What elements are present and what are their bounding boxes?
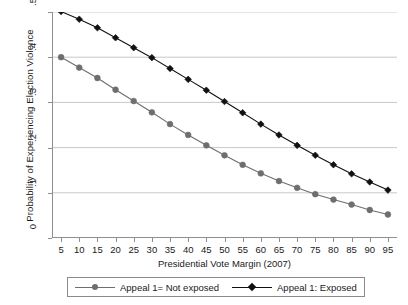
data-point-marker (276, 132, 283, 139)
x-tick-mark (297, 238, 298, 242)
data-point-marker (185, 132, 191, 138)
data-point-marker (112, 34, 119, 41)
plot-area (52, 12, 397, 238)
x-tick-mark (79, 238, 80, 242)
x-tick-label: 25 (124, 244, 144, 255)
x-tick-label: 40 (178, 244, 198, 255)
legend-entry: Appeal 1: Exposed (232, 278, 357, 296)
legend-label: Appeal 1: Exposed (277, 282, 357, 293)
x-tick-label: 50 (215, 244, 235, 255)
data-point-marker (258, 170, 264, 176)
data-point-marker (312, 152, 319, 159)
circle-marker-icon (92, 284, 98, 290)
x-tick-mark (225, 238, 226, 242)
x-tick-label: 60 (251, 244, 271, 255)
x-tick-label: 85 (342, 244, 362, 255)
chart-legend: Appeal 1= Not exposedAppeal 1: Exposed (67, 277, 365, 297)
data-point-marker (385, 212, 391, 218)
data-point-marker (76, 65, 82, 71)
x-tick-label: 15 (87, 244, 107, 255)
x-tick-mark (134, 238, 135, 242)
x-tick-mark (315, 238, 316, 242)
data-point-marker (203, 142, 209, 148)
diamond-marker-icon (248, 283, 256, 291)
data-point-marker (367, 207, 373, 213)
data-point-marker (203, 87, 210, 94)
x-tick-label: 55 (233, 244, 253, 255)
data-point-marker (331, 197, 337, 203)
legend-key (75, 281, 115, 293)
data-point-marker (312, 191, 318, 197)
y-axis-title: Probability of Experiencing Election Vio… (24, 6, 35, 246)
x-tick-label: 80 (323, 244, 343, 255)
data-point-marker (222, 152, 228, 158)
x-tick-mark (352, 238, 353, 242)
x-tick-mark (97, 238, 98, 242)
data-point-marker (239, 110, 246, 117)
x-tick-label: 65 (269, 244, 289, 255)
x-tick-mark (370, 238, 371, 242)
y-tick-mark (48, 238, 52, 239)
data-point-marker (330, 161, 337, 168)
x-tick-mark (333, 238, 334, 242)
data-point-marker (130, 44, 137, 51)
x-tick-mark (279, 238, 280, 242)
x-tick-mark (116, 238, 117, 242)
x-tick-mark (261, 238, 262, 242)
data-point-marker (366, 179, 373, 186)
x-tick-mark (170, 238, 171, 242)
legend-entry: Appeal 1= Not exposed (75, 278, 219, 296)
data-point-marker (76, 16, 83, 23)
data-point-marker (58, 54, 64, 60)
data-point-marker (221, 98, 228, 105)
x-tick-mark (152, 238, 153, 242)
x-tick-mark (388, 238, 389, 242)
x-axis-title: Presidential Vote Margin (2007) (52, 258, 397, 269)
data-point-marker (131, 98, 137, 104)
x-tick-label: 10 (69, 244, 89, 255)
data-point-marker (167, 65, 174, 72)
data-point-marker (149, 54, 156, 61)
data-point-marker (94, 25, 101, 32)
x-tick-mark (61, 238, 62, 242)
data-point-marker (349, 202, 355, 208)
data-point-marker (58, 12, 65, 15)
x-tick-mark (188, 238, 189, 242)
data-point-marker (348, 171, 355, 178)
x-tick-mark (206, 238, 207, 242)
data-point-marker (185, 76, 192, 83)
y-tick-label: .5 (28, 0, 62, 6)
data-point-marker (94, 75, 100, 81)
plot-canvas (52, 12, 397, 238)
x-tick-label: 20 (106, 244, 126, 255)
data-point-marker (276, 178, 282, 184)
legend-label: Appeal 1= Not exposed (120, 282, 219, 293)
chart-figure: Probability of Experiencing Election Vio… (0, 0, 408, 305)
x-tick-label: 45 (196, 244, 216, 255)
data-point-marker (113, 87, 119, 93)
data-point-marker (167, 121, 173, 127)
x-tick-label: 30 (142, 244, 162, 255)
data-point-marker (294, 185, 300, 191)
x-tick-mark (243, 238, 244, 242)
data-point-marker (258, 121, 265, 128)
legend-key (232, 281, 272, 293)
x-tick-label: 90 (360, 244, 380, 255)
data-point-marker (240, 162, 246, 168)
x-tick-label: 95 (378, 244, 398, 255)
x-tick-label: 70 (287, 244, 307, 255)
x-tick-label: 5 (51, 244, 71, 255)
x-tick-label: 35 (160, 244, 180, 255)
series-line-0 (61, 57, 388, 214)
x-tick-label: 75 (305, 244, 325, 255)
data-point-marker (149, 109, 155, 115)
